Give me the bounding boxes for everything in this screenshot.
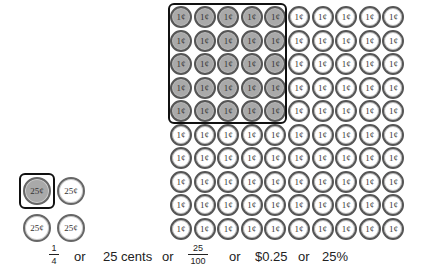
penny-coin: 1¢ — [312, 194, 334, 216]
penny-highlight-box — [168, 3, 287, 124]
penny-coin: 1¢ — [382, 147, 404, 169]
penny-coin: 1¢ — [359, 194, 381, 216]
penny-coin: 1¢ — [382, 194, 404, 216]
fraction-one-fourth: 1 4 — [49, 243, 59, 266]
penny-coin: 1¢ — [264, 218, 286, 240]
penny-coin: 1¢ — [194, 218, 216, 240]
penny-coin: 1¢ — [382, 100, 404, 122]
penny-coin: 1¢ — [241, 124, 263, 146]
penny-coin: 1¢ — [335, 30, 357, 52]
fraction-numerator: 25 — [193, 243, 203, 253]
penny-coin: 1¢ — [241, 194, 263, 216]
penny-coin: 1¢ — [382, 6, 404, 28]
penny-coin: 1¢ — [382, 218, 404, 240]
penny-coin: 1¢ — [217, 194, 239, 216]
penny-coin: 1¢ — [312, 100, 334, 122]
or-text: or — [162, 249, 174, 264]
penny-coin: 1¢ — [312, 218, 334, 240]
penny-coin: 1¢ — [241, 171, 263, 193]
penny-coin: 1¢ — [335, 77, 357, 99]
penny-coin: 1¢ — [335, 218, 357, 240]
penny-coin: 1¢ — [194, 194, 216, 216]
penny-coin: 1¢ — [359, 6, 381, 28]
penny-coin: 1¢ — [335, 194, 357, 216]
penny-coin: 1¢ — [382, 53, 404, 75]
penny-coin: 1¢ — [288, 194, 310, 216]
penny-coin: 1¢ — [288, 53, 310, 75]
penny-coin: 1¢ — [335, 53, 357, 75]
penny-coin: 1¢ — [288, 30, 310, 52]
penny-coin: 1¢ — [288, 100, 310, 122]
penny-coin: 1¢ — [359, 218, 381, 240]
or-text: or — [229, 249, 241, 264]
penny-coin: 1¢ — [312, 53, 334, 75]
fraction-numerator: 1 — [51, 243, 56, 253]
penny-coin: 1¢ — [335, 171, 357, 193]
penny-coin: 1¢ — [382, 124, 404, 146]
quarter-coin: 25¢ — [23, 214, 51, 242]
penny-coin: 1¢ — [217, 124, 239, 146]
penny-coin: 1¢ — [170, 124, 192, 146]
penny-coin: 1¢ — [241, 218, 263, 240]
penny-coin: 1¢ — [335, 6, 357, 28]
penny-coin: 1¢ — [312, 171, 334, 193]
penny-coin: 1¢ — [382, 30, 404, 52]
penny-coin: 1¢ — [194, 147, 216, 169]
penny-coin: 1¢ — [170, 171, 192, 193]
penny-coin: 1¢ — [288, 6, 310, 28]
penny-coin: 1¢ — [264, 171, 286, 193]
dollars-text: $0.25 — [255, 249, 288, 264]
or-text: or — [74, 249, 86, 264]
penny-coin: 1¢ — [194, 124, 216, 146]
penny-coin: 1¢ — [264, 147, 286, 169]
quarter-highlight-box — [19, 173, 55, 209]
penny-coin: 1¢ — [170, 147, 192, 169]
penny-coin: 1¢ — [359, 100, 381, 122]
fraction-bar — [49, 254, 59, 255]
penny-coin: 1¢ — [359, 30, 381, 52]
penny-coin: 1¢ — [194, 171, 216, 193]
fraction-denominator: 4 — [51, 256, 56, 266]
penny-coin: 1¢ — [335, 100, 357, 122]
penny-coin: 1¢ — [312, 30, 334, 52]
penny-coin: 1¢ — [288, 77, 310, 99]
penny-coin: 1¢ — [288, 147, 310, 169]
penny-coin: 1¢ — [217, 147, 239, 169]
penny-coin: 1¢ — [264, 194, 286, 216]
cents-text: 25 cents — [103, 249, 152, 264]
or-text: or — [298, 249, 310, 264]
quarter-coin: 25¢ — [57, 177, 85, 205]
penny-coin: 1¢ — [382, 77, 404, 99]
penny-coin: 1¢ — [312, 77, 334, 99]
penny-coin: 1¢ — [359, 77, 381, 99]
percent-text: 25% — [322, 249, 348, 264]
penny-coin: 1¢ — [288, 124, 310, 146]
penny-coin: 1¢ — [312, 124, 334, 146]
penny-coin: 1¢ — [312, 147, 334, 169]
fraction-25-100: 25 100 — [188, 243, 208, 266]
quarter-coin: 25¢ — [57, 214, 85, 242]
penny-coin: 1¢ — [312, 6, 334, 28]
penny-coin: 1¢ — [288, 171, 310, 193]
penny-coin: 1¢ — [170, 194, 192, 216]
penny-coin: 1¢ — [241, 147, 263, 169]
penny-coin: 1¢ — [217, 218, 239, 240]
penny-coin: 1¢ — [264, 124, 286, 146]
fraction-bar — [188, 254, 208, 255]
penny-coin: 1¢ — [170, 218, 192, 240]
penny-coin: 1¢ — [382, 171, 404, 193]
penny-coin: 1¢ — [217, 171, 239, 193]
penny-coin: 1¢ — [359, 124, 381, 146]
fraction-denominator: 100 — [190, 256, 205, 266]
penny-coin: 1¢ — [288, 218, 310, 240]
penny-coin: 1¢ — [335, 147, 357, 169]
penny-coin: 1¢ — [359, 147, 381, 169]
penny-coin: 1¢ — [359, 171, 381, 193]
penny-coin: 1¢ — [335, 124, 357, 146]
penny-coin: 1¢ — [359, 53, 381, 75]
